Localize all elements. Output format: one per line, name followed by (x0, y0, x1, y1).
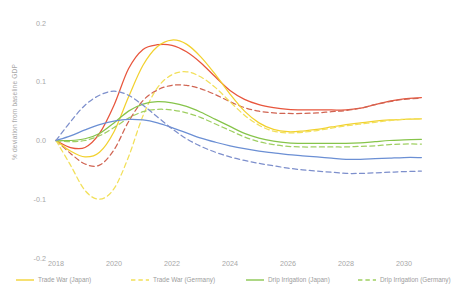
legend-label[interactable]: Trade War (Japan) (38, 276, 91, 284)
series-line (56, 91, 421, 173)
chart-figure: 0.20.10.0-0.1-0.2 2018202020222024202620… (0, 0, 454, 289)
line-chart-canvas: 0.20.10.0-0.1-0.2 2018202020222024202620… (0, 0, 454, 289)
y-tick-label: 0.1 (36, 77, 46, 86)
x-tick-label: 2030 (396, 259, 412, 268)
y-axis-tick-labels: 0.20.10.0-0.1-0.2 (34, 19, 46, 263)
x-tick-label: 2018 (48, 259, 64, 268)
y-tick-label: 0.2 (36, 19, 46, 28)
legend-label[interactable]: Trade War (Germany) (153, 276, 215, 284)
x-tick-label: 2020 (106, 259, 122, 268)
plot-series-group (56, 40, 421, 199)
y-tick-label: -0.1 (34, 195, 46, 204)
y-tick-label: 0.0 (36, 136, 46, 145)
y-axis-title: % deviation from baseline GDP (11, 64, 18, 160)
y-tick-label: -0.2 (34, 254, 46, 263)
series-line (56, 72, 421, 200)
series-line (56, 40, 421, 157)
series-line (56, 44, 421, 149)
chart-legend: Trade War (Japan)Trade War (Germany)Drip… (16, 276, 451, 284)
legend-label[interactable]: Drip Irrigation (Japan) (268, 276, 330, 284)
x-tick-label: 2028 (338, 259, 354, 268)
x-tick-label: 2022 (164, 259, 180, 268)
x-axis-tick-labels: 2018202020222024202620282030 (48, 259, 412, 268)
series-line (56, 109, 421, 147)
x-tick-label: 2026 (280, 259, 296, 268)
legend-label[interactable]: Drip Irrigation (Germany) (380, 276, 451, 284)
x-tick-label: 2024 (222, 259, 238, 268)
